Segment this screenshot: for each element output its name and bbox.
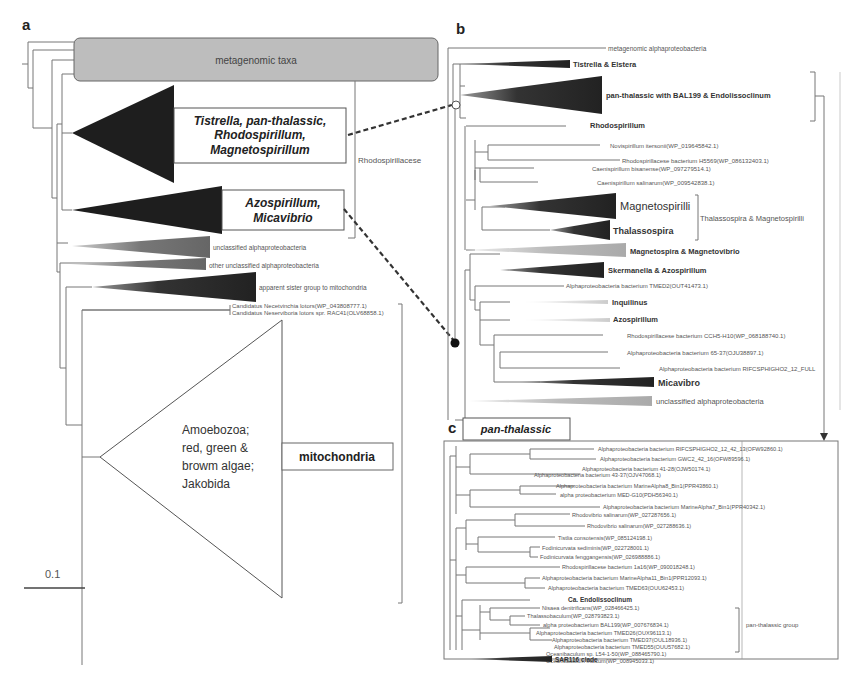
panel-c-letter: c [448,419,456,436]
clade2-label-line-1: Azospirillum, [244,196,320,210]
clade-micavibrio [520,377,654,387]
panel-c-leaves: Alphaproteobacteria bacterium RIFCSPHIGH… [527,446,783,664]
panel-a: a metagenomic taxa Tistrella, pan-thalas… [22,16,438,665]
leaf-rhodospirillum: Rhodospirillum [590,121,645,130]
c-leaf: alpha proteobacterium MED-G10(PDH56340.1… [560,492,678,498]
c-leaf: Fodinicurvata fenggangensis(WP_026988886… [540,554,660,560]
clade-triangle-unclassified [72,236,210,258]
c-leaf: Fodinicurvata sediminis(WP_022728001.1) [542,545,649,551]
pan-thalassic-group-bracket [735,608,739,652]
c-leaf: Rhodospirillacese bacterium 1a16(WP_0900… [562,564,695,570]
leaf-cch5: Rhodospirillacese bacterium CCH5-H10(WP_… [627,333,785,339]
c-leaf: Alphaproteobacteria bacterium TMED63(OUU… [548,585,684,591]
rhodospirillacese-bracket [348,81,355,238]
c-leaf: Rhodovibrio salinarum(WP_027288636.1) [587,523,691,529]
clade-azospirillum [520,318,610,322]
c-leaf-bold: Ca. Endolissoclinum [568,596,632,603]
clade-thalassospira [550,220,610,240]
connector-dash-bottom [344,209,455,342]
scale-bar-label: 0.1 [45,568,60,580]
c-leaf: Alphaproteobacteria bacterium GWC2_42_16… [600,456,750,462]
other-unclassified-label: other unclassified alphaproteobacteria [209,262,319,270]
c-leaf: Nisaea denitrificans(WP_028466425.1) [542,605,639,611]
connector-dash-top [348,105,452,135]
c-leaf: Alphaproteobacteria bacterium TMED55(OUU… [554,644,690,650]
c-leaf: Alphaproteobacteria bacterium TMED26(OUX… [536,630,671,636]
sister-group-label: apparent sister group to mitochondria [259,284,367,292]
clade2-label-line-2: Micavibrio [253,211,312,225]
clade-magnetospira [466,243,626,257]
metagenomic-taxa-label: metagenomic taxa [215,55,297,66]
leaf-unclassified-b: unclassified alphaproteobacteria [656,397,764,406]
leaf-rhodospirillacese-h5569: Rhodospirillacese bacterium H5569(WP_086… [622,158,769,164]
clade-triangle-sister-group [92,272,256,302]
c-leaf: Tistlia consotensis(WP_085124198.1) [558,535,652,541]
clade-inquilinus [520,300,608,304]
leaf-tmed2: Alphaproteobacteria bacterium TMED2(OUT4… [566,283,708,289]
mito-clade-line-2: red, green & [182,441,248,455]
pan-thalassic-bracket [810,72,824,433]
rhodospirillacese-label: Rhodospirillacese [358,156,422,165]
leaf-caenispirillum-salinarum: Caenispirillum salinarum(WP_009542838.1) [597,180,714,186]
c-leaf: Thalassobaculum(WP_028793823.1) [527,613,619,619]
mitochondria-label: mitochondria [299,450,375,464]
leaf-thalassospira: Thalassospira [613,226,675,236]
leaf-azospirillum: Azospirillum [613,315,658,324]
thalassospira-magnetospirilli-bracket [695,195,698,240]
node-marker-open [452,101,460,109]
c-leaf: Alphaproteobacteria bacterium MarineAlph… [542,575,707,581]
leaf-novispirillum: Novispirillum itersonii(WP_019645842.1) [610,143,718,149]
leaf-6537: Alphaproteobacteria bacterium 65-37(OJU3… [627,350,763,356]
candidatus-branches [82,305,230,315]
panel-b: b metagenomic alphaproteobacteria Tistre… [448,20,840,441]
c-leaf-sar116: SAR116 clade [555,656,598,663]
clade-skermanella [500,262,604,278]
clade-triangle-other-unclassified [70,258,206,270]
clade-unclassified-b [468,396,652,406]
clade-magnetospirilli [490,193,616,219]
c-leaf: Alphaproteobacteria bacterium 43-37(OJV4… [534,472,661,478]
leaf-pan-thalassic: pan-thalassic with BAL199 & Endolissocli… [606,91,771,100]
leaf-magnetospirilli: Magnetospirilli [620,200,690,212]
node-marker-filled [451,339,460,348]
leaf-metagenomic-alphaproteobacteria: metagenomic alphaproteobacteria [608,45,707,53]
candidatus-leaf-1: Candidatus Necetvinchia lotors(WP_043808… [232,303,367,309]
clade-tistrella-elstera [460,60,570,68]
leaf-magnetospira: Magnetospira & Magnetovibrio [630,247,740,256]
leaf-tistrella-elstera: Tistrella & Elstera [573,60,637,69]
unclassified-label: unclassified alphaproteobacteria [213,244,307,252]
clade-triangle-tistrella-group [72,85,174,183]
c-leaf: Alphaproteobacteria bacterium MarineAlph… [603,504,765,510]
mitochondria-outer-bracket [398,304,402,603]
leaf-rifcs: Alphaproteobacteria bacterium RIFCSPHIGH… [659,366,816,372]
mito-clade-line-4: Jakobida [182,477,230,491]
leaf-inquilinus: Inquilinus [612,298,647,307]
pan-thalassic-group-label: pan-thalassic group [746,622,799,628]
clade-sar116 [470,656,552,662]
c-leaf: Alphaproteobacteria bacterium MarineAlph… [556,483,718,489]
clade-label-line-1: Tistrella, pan-thalassic, [194,114,327,128]
panel-c: c pan-thalassic Alphaproteobacteria bact… [444,418,838,664]
leaf-skermanella: Skermanella & Azospirillum [608,266,707,275]
c-leaf: Alphaproteobacteria bacterium RIFCSPHIGH… [598,446,783,452]
panel-b-letter: b [456,20,465,37]
leaf-caenispirillum-bisanense: Caenispirillum bisanense(WP_097279514.1) [592,166,711,172]
clade-label-line-2: Rhodospirillum, [214,128,305,142]
figure-canvas: a metagenomic taxa Tistrella, pan-thalas… [0,0,859,684]
clade-pan-thalassic [460,76,602,114]
mito-clade-line-3: browm algae; [182,459,254,473]
c-leaf: Rhodovibrio salinarum(WP_027287656.1) [572,512,676,518]
c-leaf: Alphaproteobacteria bacterium TMED37(OUL… [552,637,687,643]
panel-c-title: pan-thalassic [480,423,551,435]
clade-triangle-azospirillum-group [72,186,222,234]
leaf-micavibrio: Micavibro [658,378,701,388]
c-leaf: alpha proteobacterium BAL199(WP_00767683… [543,622,669,628]
panel-a-letter: a [22,16,31,33]
mito-clade-line-1: Amoebozoa; [182,423,249,437]
arrow-down-icon [820,433,828,441]
label-thalassospira-magnetospirilli: Thalassospira & Magnetospirilli [700,214,804,223]
clade-label-line-3: Magnetospirillum [210,143,310,157]
candidatus-leaf-2: Candidatus Neserviboria lotors spr. RAC4… [232,310,384,316]
